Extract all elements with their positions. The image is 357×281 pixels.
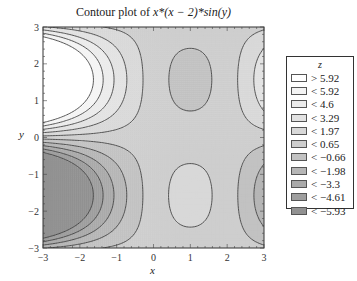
legend-swatch [291, 153, 307, 161]
x-tick-label: 2 [225, 252, 230, 263]
legend-swatch [291, 74, 307, 82]
legend-swatch [291, 180, 307, 188]
legend-entry: < −4.61 [287, 191, 353, 204]
x-tick-label: 1 [188, 252, 193, 263]
legend-label: > 5.92 [311, 72, 339, 84]
y-tick-label: 2 [34, 58, 39, 69]
y-tick-label: 3 [34, 22, 39, 33]
x-axis-label: x [150, 264, 155, 276]
x-tick-label: −3 [38, 252, 49, 263]
legend-swatch [291, 207, 307, 215]
legend-swatch [291, 140, 307, 148]
legend-label: < −4.61 [311, 191, 345, 203]
legend-swatch [291, 100, 307, 108]
legend-label: < 0.65 [311, 138, 339, 150]
y-tick-label: 1 [34, 95, 39, 106]
legend-entry: < −5.93 [287, 204, 353, 217]
legend-entry: < −1.98 [287, 164, 353, 177]
legend-entry: < 1.97 [287, 124, 353, 137]
y-tick-label: −1 [28, 169, 39, 180]
y-tick-label: −2 [28, 206, 39, 217]
contour-fill [43, 27, 264, 248]
legend-label: < −3.3 [311, 178, 340, 190]
legend-entry: < −0.66 [287, 151, 353, 164]
x-tick-label: −1 [111, 252, 122, 263]
legend-label: < 4.6 [311, 98, 334, 110]
legend-entry: > 5.92 [287, 71, 353, 84]
y-axis-label: y [19, 128, 24, 140]
legend-swatch [291, 193, 307, 201]
legend-label: < −0.66 [311, 151, 345, 163]
x-tick-label: 0 [151, 252, 156, 263]
x-tick-label: 3 [262, 252, 267, 263]
legend-swatch [291, 167, 307, 175]
legend-swatch [291, 114, 307, 122]
legend-entry: < 0.65 [287, 137, 353, 150]
legend-entry: < −3.3 [287, 177, 353, 190]
legend-label: < −1.98 [311, 165, 345, 177]
legend-label: < −5.93 [311, 205, 345, 217]
x-tick-label: −2 [75, 252, 86, 263]
legend-entry: < 4.6 [287, 98, 353, 111]
legend-label: < 1.97 [311, 125, 339, 137]
legend-label: < 5.92 [311, 85, 339, 97]
legend-entry: < 5.92 [287, 84, 353, 97]
legend-label: < 3.29 [311, 112, 339, 124]
legend-swatch [291, 87, 307, 95]
legend-title: z [287, 59, 353, 71]
legend-entry: < 3.29 [287, 111, 353, 124]
legend-swatch [291, 127, 307, 135]
legend: z > 5.92< 5.92< 4.6< 3.29< 1.97< 0.65< −… [286, 56, 354, 209]
y-tick-label: 0 [34, 132, 39, 143]
y-tick-label: −3 [28, 243, 39, 254]
